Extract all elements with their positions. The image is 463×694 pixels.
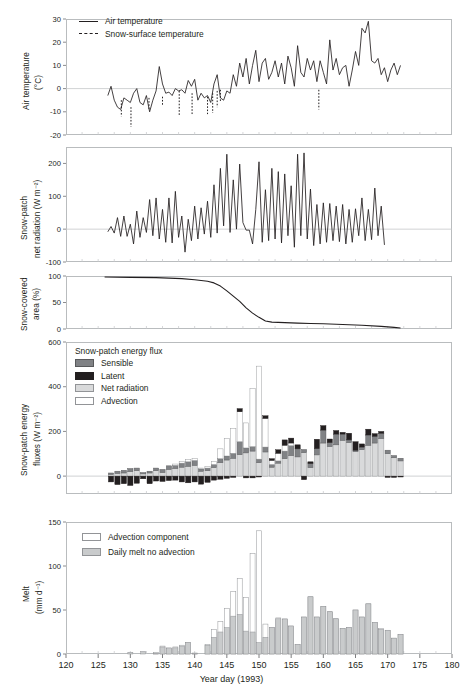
bar-daily-melt bbox=[321, 606, 326, 654]
legend-label: Advection component bbox=[108, 532, 189, 542]
bar-daily-melt bbox=[173, 648, 178, 654]
panel-3-ylabel-line1: Snow-covered bbox=[20, 277, 29, 331]
bar-daily-melt bbox=[385, 630, 390, 654]
bar-latent bbox=[359, 444, 364, 447]
bar-latent bbox=[198, 476, 203, 484]
bar-latent bbox=[256, 476, 261, 477]
panel-1-plot: 3020100-10-20 bbox=[0, 0, 463, 140]
bar-advection bbox=[224, 439, 229, 456]
panel-1-ylabel-line2: (°C) bbox=[34, 75, 43, 90]
bar-net-radiation bbox=[385, 454, 390, 476]
bar-sensible bbox=[218, 459, 223, 463]
x-tick-label: 165 bbox=[348, 660, 363, 670]
bar-advection bbox=[263, 418, 268, 447]
panel-4-ylabel-line2: fluxes (W m⁻²) bbox=[32, 412, 42, 466]
y-tick-label: 200 bbox=[48, 427, 61, 436]
x-tick-label: 150 bbox=[251, 660, 266, 670]
daily-melt-swatch-icon bbox=[82, 548, 101, 556]
bar-sensible bbox=[346, 440, 351, 443]
bar-latent bbox=[186, 476, 191, 483]
bar-latent bbox=[108, 476, 113, 482]
x-tick-label: 175 bbox=[412, 660, 427, 670]
bar-net-radiation bbox=[346, 443, 351, 477]
bar-latent bbox=[327, 439, 332, 443]
bar-sensible bbox=[366, 435, 371, 445]
bar-latent bbox=[237, 409, 242, 412]
bar-daily-melt bbox=[263, 637, 268, 654]
bar-daily-melt bbox=[289, 627, 294, 654]
y-tick-label: 0 bbox=[57, 225, 61, 234]
bar-sensible bbox=[108, 473, 113, 474]
bar-advection bbox=[250, 388, 255, 446]
bar-daily-melt bbox=[353, 610, 358, 654]
y-tick-label: -20 bbox=[50, 131, 61, 140]
panel-2-ylabel-text1: Snow-patch bbox=[20, 196, 29, 240]
bar-latent bbox=[192, 476, 197, 482]
x-tick-label: 180 bbox=[444, 660, 459, 670]
y-tick-label: 50 bbox=[53, 606, 61, 615]
bar-latent bbox=[243, 476, 248, 478]
bar-latent bbox=[295, 445, 300, 449]
bar-daily-melt bbox=[372, 622, 377, 654]
panel-4-ylabel-text2: fluxes (W m⁻²) bbox=[33, 412, 42, 466]
panel-4-ylabel-line1: Snow-patch energy bbox=[20, 404, 29, 476]
bar-latent bbox=[301, 476, 306, 480]
bar-daily-melt bbox=[205, 645, 210, 654]
bar-net-radiation bbox=[192, 465, 197, 476]
bar-sensible bbox=[295, 449, 300, 457]
bar-net-radiation bbox=[134, 471, 139, 476]
bar-advection bbox=[237, 412, 242, 442]
bar-daily-melt bbox=[302, 617, 307, 654]
bar-latent bbox=[141, 476, 146, 479]
bar-sensible bbox=[321, 430, 326, 443]
bar-sensible bbox=[243, 448, 248, 453]
bar-net-radiation bbox=[282, 459, 287, 476]
bar-latent bbox=[205, 476, 210, 482]
x-tick-label: 155 bbox=[284, 660, 299, 670]
y-tick-label: -100 bbox=[46, 258, 61, 267]
panel-5-legend: Advection component Daily melt no advect… bbox=[82, 529, 195, 559]
bar-sensible bbox=[121, 470, 126, 473]
bar-net-radiation bbox=[205, 471, 210, 476]
bar-sensible bbox=[314, 449, 319, 455]
bar-latent bbox=[231, 476, 236, 477]
bar-daily-melt bbox=[347, 628, 352, 654]
bar-net-radiation bbox=[379, 439, 384, 477]
y-tick-label: -10 bbox=[50, 107, 61, 116]
bar-latent bbox=[263, 416, 268, 419]
bar-advection bbox=[243, 423, 248, 448]
bar-daily-melt bbox=[250, 632, 255, 654]
bar-sensible bbox=[128, 469, 133, 472]
bar-latent bbox=[308, 462, 313, 464]
panel-5-ylabel-line1: Melt bbox=[22, 586, 31, 602]
panel-3-plot: 100500 bbox=[0, 270, 463, 336]
bar-daily-melt bbox=[166, 649, 171, 654]
bar-sensible bbox=[372, 436, 377, 443]
y-tick-label: 600 bbox=[48, 338, 61, 347]
x-tick-label: 140 bbox=[187, 660, 202, 670]
latent-swatch-icon bbox=[75, 372, 94, 380]
bar-sensible bbox=[269, 464, 274, 467]
bar-daily-melt bbox=[218, 632, 223, 654]
bar-net-radiation bbox=[128, 472, 133, 476]
bar-latent bbox=[282, 440, 287, 445]
bar-net-radiation bbox=[327, 447, 332, 477]
y-tick-label: 20 bbox=[53, 38, 61, 47]
bar-net-radiation bbox=[372, 443, 377, 476]
bar-net-radiation bbox=[153, 471, 158, 476]
bar-daily-melt bbox=[192, 653, 197, 654]
bar-advection-component bbox=[256, 531, 261, 654]
bar-daily-melt bbox=[379, 629, 384, 654]
y-tick-label: 400 bbox=[48, 382, 61, 391]
bar-net-radiation bbox=[179, 467, 184, 476]
panel-2-ylabel-text2: net radiation (W m⁻²) bbox=[33, 180, 42, 258]
bar-sensible bbox=[398, 458, 403, 461]
bar-sensible bbox=[256, 459, 261, 463]
bar-sensible bbox=[115, 471, 120, 473]
bar-net-radiation bbox=[121, 473, 126, 476]
bar-latent bbox=[289, 438, 294, 443]
bar-daily-melt bbox=[314, 617, 319, 654]
bar-latent bbox=[334, 431, 339, 435]
legend-label: Air temperature bbox=[105, 16, 163, 26]
y-tick-label: 10 bbox=[53, 61, 61, 70]
